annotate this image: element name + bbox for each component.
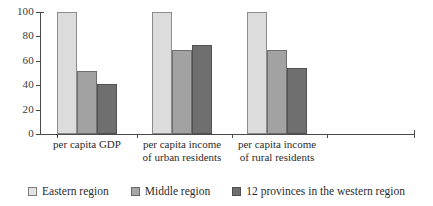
- legend-label: Middle region: [145, 185, 210, 197]
- y-axis-tick-label: 80: [0, 30, 34, 41]
- y-axis-tick-label: 100: [0, 6, 34, 17]
- bar: [172, 50, 192, 134]
- category-label: per capita GDP: [40, 138, 134, 151]
- x-axis-line: [40, 134, 415, 135]
- bar: [77, 71, 97, 134]
- bar: [192, 45, 212, 134]
- legend-swatch-icon: [131, 187, 140, 196]
- legend-label: 12 provinces in the western region: [246, 185, 405, 197]
- bar: [247, 12, 267, 134]
- bar: [287, 68, 307, 134]
- x-axis-tick: [414, 134, 415, 138]
- bar: [152, 12, 172, 134]
- legend-item[interactable]: 12 provinces in the western region: [232, 185, 405, 197]
- plot-area: [40, 12, 415, 134]
- y-axis-tick-label: 0: [0, 128, 34, 139]
- bar-group: [152, 12, 212, 134]
- bar: [57, 12, 77, 134]
- y-axis-tick-label: 40: [0, 79, 34, 90]
- x-axis-tick: [327, 134, 328, 138]
- y-axis-tick-label: 20: [0, 104, 34, 115]
- legend-label: Eastern region: [42, 185, 109, 197]
- chart-legend: Eastern regionMiddle region12 provinces …: [0, 182, 433, 200]
- bar: [97, 84, 117, 134]
- category-label: per capita income of rural residents: [230, 138, 324, 164]
- bar: [267, 50, 287, 134]
- bar-chart: 020406080100 per capita GDPper capita in…: [0, 0, 433, 206]
- y-axis-tick: [36, 134, 41, 135]
- bar-group: [247, 12, 307, 134]
- legend-swatch-icon: [232, 187, 241, 196]
- bar-group: [57, 12, 117, 134]
- y-axis-tick-label: 60: [0, 55, 34, 66]
- legend-item[interactable]: Middle region: [131, 185, 210, 197]
- category-label: per capita income of urban residents: [135, 138, 229, 164]
- legend-swatch-icon: [28, 187, 37, 196]
- legend-item[interactable]: Eastern region: [28, 185, 109, 197]
